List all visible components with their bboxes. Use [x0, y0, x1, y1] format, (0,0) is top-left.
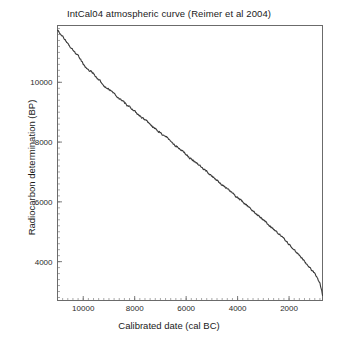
- x-tick-label: 10000: [72, 304, 95, 313]
- y-tick-label: 4000: [35, 258, 53, 267]
- axes-frame: [58, 26, 323, 301]
- y-axis-label: Radiocarbon determination (BP): [26, 53, 37, 283]
- y-tick-label: 6000: [35, 198, 53, 207]
- x-tick-label: 6000: [177, 304, 195, 313]
- plot-frame: [58, 26, 323, 301]
- plot-area: 100008000600040002000 40006000800010000: [0, 0, 338, 344]
- chart-figure: IntCal04 atmospheric curve (Reimer et al…: [0, 0, 338, 344]
- x-tick-label: 4000: [229, 304, 247, 313]
- x-tick-labels: 100008000600040002000: [72, 304, 298, 313]
- x-tick-label: 8000: [126, 304, 144, 313]
- y-tick-label: 8000: [35, 138, 53, 147]
- x-axis-label: Calibrated date (cal BC): [0, 320, 338, 331]
- x-tick-label: 2000: [280, 304, 298, 313]
